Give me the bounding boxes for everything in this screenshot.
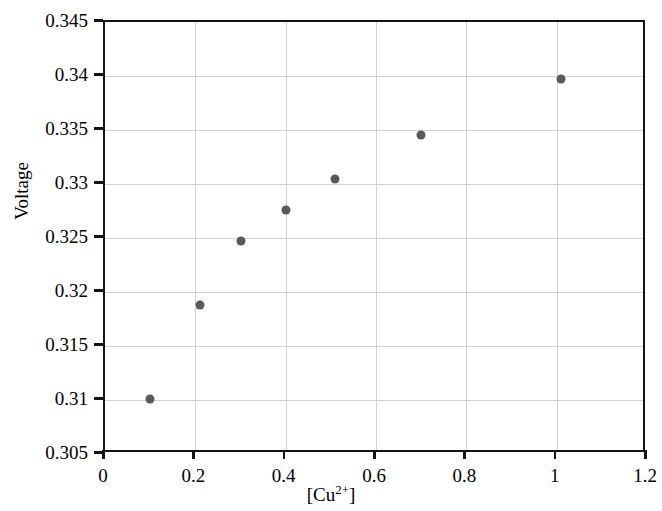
y-tick-mark	[94, 73, 103, 76]
y-tick-label: 0.31	[55, 389, 88, 408]
data-point	[331, 174, 340, 183]
x-tick-label: 1	[550, 466, 560, 485]
x-axis-title-base: [Cu	[307, 484, 336, 505]
data-point	[236, 237, 245, 246]
x-tick-mark	[192, 450, 195, 459]
data-points	[105, 22, 643, 450]
x-tick-label: 0.4	[272, 466, 296, 485]
x-tick-label: 0.8	[452, 466, 476, 485]
x-tick-mark	[373, 450, 376, 459]
data-point	[195, 300, 204, 309]
y-tick-mark	[94, 343, 103, 346]
y-tick-label: 0.33	[55, 173, 88, 192]
x-axis-title-close: ]	[349, 484, 355, 505]
x-tick-mark	[102, 450, 105, 459]
x-tick-label: 0	[98, 466, 108, 485]
y-axis-title: Voltage	[11, 136, 33, 246]
data-point	[557, 75, 566, 84]
y-tick-mark	[94, 127, 103, 130]
x-tick-label: 0.2	[181, 466, 205, 485]
y-tick-mark	[94, 181, 103, 184]
y-tick-label: 0.325	[45, 227, 88, 246]
x-axis-title: [Cu2+]	[0, 484, 662, 506]
plot-area	[103, 20, 645, 452]
x-tick-mark	[644, 450, 647, 459]
x-tick-mark	[283, 450, 286, 459]
y-tick-mark	[94, 289, 103, 292]
y-tick-label: 0.305	[45, 443, 88, 462]
y-tick-label: 0.315	[45, 335, 88, 354]
y-tick-label: 0.345	[45, 11, 88, 30]
y-tick-mark	[94, 235, 103, 238]
y-tick-mark	[94, 19, 103, 22]
x-tick-label: 0.6	[362, 466, 386, 485]
y-tick-label: 0.335	[45, 119, 88, 138]
x-axis-title-superscript: 2+	[335, 482, 349, 497]
x-tick-mark	[554, 450, 557, 459]
x-tick-label: 1.2	[633, 466, 657, 485]
scatter-chart: Voltage 0.3050.310.3150.320.3250.330.335…	[0, 0, 662, 511]
x-tick-mark	[463, 450, 466, 459]
y-tick-mark	[94, 397, 103, 400]
y-tick-label: 0.34	[55, 65, 88, 84]
y-tick-label: 0.32	[55, 281, 88, 300]
data-point	[281, 205, 290, 214]
data-point	[146, 394, 155, 403]
data-point	[417, 131, 426, 140]
